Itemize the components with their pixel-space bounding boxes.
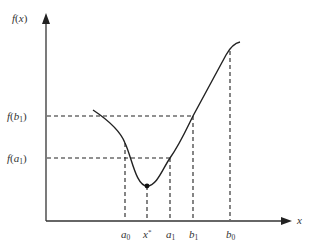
- function-curve: [93, 42, 240, 186]
- minimum-point: [145, 184, 150, 189]
- unimodal-search-diagram: f(x) x f(b1) f(a1) a0 x* a1 b1 b0: [0, 0, 309, 250]
- y-level-label-f-a1: f(a1): [7, 152, 27, 166]
- y-axis-arrow-icon: [42, 13, 50, 24]
- x-tick-label-b0: b0: [226, 228, 236, 242]
- x-axis-arrow-icon: [281, 217, 292, 225]
- x-tick-label-a1: a1: [166, 228, 176, 242]
- y-axis-label: f(x): [12, 12, 28, 25]
- x-axis-label: x: [296, 214, 302, 226]
- x-tick-label-a0: a0: [121, 228, 131, 242]
- x-tick-label-xstar: x*: [142, 228, 152, 240]
- x-tick-label-b1: b1: [189, 228, 199, 242]
- y-level-label-f-b1: f(b1): [7, 110, 27, 124]
